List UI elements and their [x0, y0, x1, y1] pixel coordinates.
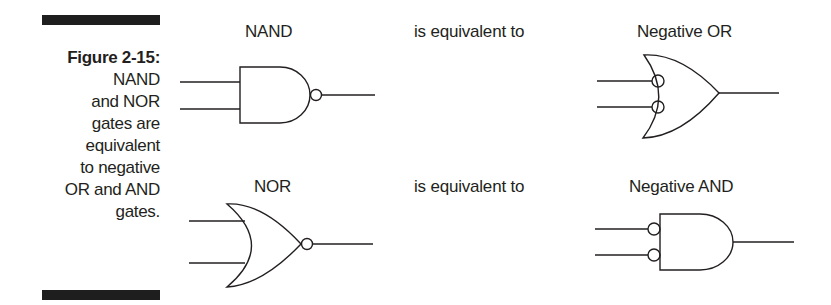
nand-gate-icon [180, 67, 375, 123]
negative-or-gate-icon [597, 55, 779, 138]
negative-and-gate-icon [595, 214, 794, 270]
gate-diagrams [0, 0, 831, 305]
nor-gate-icon [189, 204, 373, 287]
